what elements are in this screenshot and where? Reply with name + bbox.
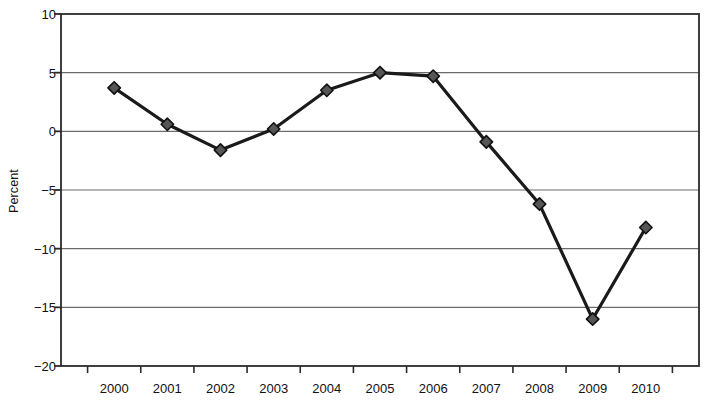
- x-tick-label: 2005: [366, 381, 395, 396]
- x-tick-label: 2009: [578, 381, 607, 396]
- x-tick-label: 2007: [472, 381, 501, 396]
- x-tick-label: 2006: [419, 381, 448, 396]
- data-point-marker: [214, 144, 226, 156]
- chart-container: Percent 1050−5−10−15−20 2000200120022003…: [0, 0, 706, 409]
- x-tick-label: 2008: [525, 381, 554, 396]
- series-markers: [108, 66, 652, 325]
- x-tick-label: 2010: [631, 381, 660, 396]
- series-line: [114, 73, 646, 319]
- x-tick-label: 2004: [312, 381, 341, 396]
- data-line: [114, 73, 646, 319]
- y-axis-ticks: [54, 14, 61, 366]
- grid-lines: [61, 73, 699, 308]
- x-tick-label: 2000: [100, 381, 129, 396]
- x-tick-label: 2002: [206, 381, 235, 396]
- x-tick-label: 2001: [153, 381, 182, 396]
- plot-area: [0, 0, 706, 409]
- data-point-marker: [374, 66, 386, 78]
- x-axis-ticks: [88, 366, 673, 373]
- x-tick-label: 2003: [259, 381, 288, 396]
